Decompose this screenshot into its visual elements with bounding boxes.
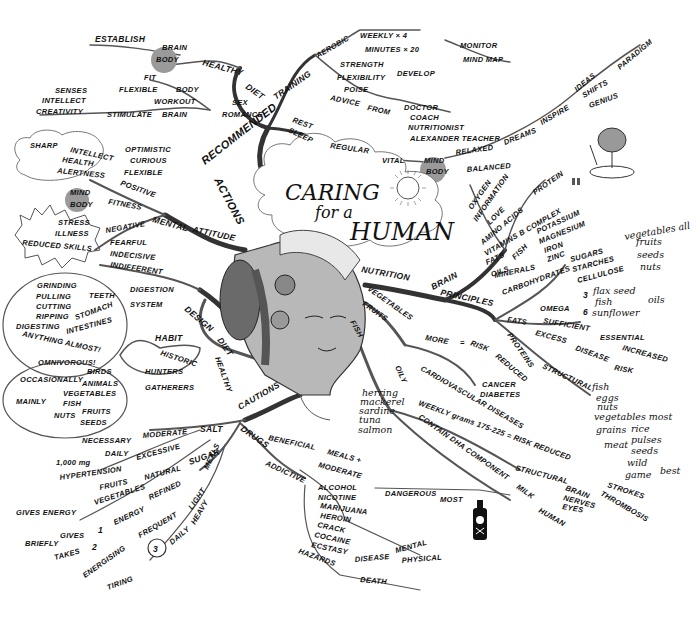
label-relaxed: RELAXED [455,143,494,157]
label-advice: ADVICE [329,93,362,108]
label-curious: CURIOUS [130,156,167,165]
title-line1: CARING [285,180,380,205]
label-romance: ROMANCE [222,110,264,119]
label-historic: HISTORIC [159,348,198,368]
label-risk-2: RISK [469,338,490,353]
label-body-3: BODY [426,167,450,176]
label-necessary: NECESSARY [82,436,132,445]
label-salt: SALT [200,424,223,434]
label-paradigm: PARADIGM [616,37,655,72]
label-fish-2: FISH [510,242,529,261]
label-omega3: 3 [583,290,588,300]
label-body-2: BODY [176,85,200,94]
label-omnivorous: OMNIVOROUS! [38,358,96,367]
brain-eating-illustration [572,128,634,185]
label-nuts-2: nuts [640,261,661,272]
label-sharp: SHARP [30,141,58,150]
label-system: SYSTEM [130,300,163,309]
label-briefly: BRIEFLY [25,539,59,548]
label-occasionally: OCCASIONALLY [20,375,84,384]
label-tiring: TIRING [106,574,135,592]
label-disease-2: DISEASE [574,343,611,364]
label-structural: STRUCTURAL [541,362,594,393]
label-nuts: NUTS [54,411,76,420]
label-seeds: SEEDS [80,418,107,427]
label-physical: PHYSICAL [401,553,442,565]
label-drugs: DRUGS [239,423,271,450]
label-protein: PROTEIN [531,169,565,197]
label-animals: ANIMALS [81,379,118,388]
label-negative: NEGATIVE [105,219,147,235]
label-intellect: INTELLECT [42,96,87,105]
label-brain: BRAIN [162,43,188,52]
label-optimistic: OPTIMISTIC [125,145,171,154]
label-workout: WORKOUT [154,97,197,106]
label-mental-2: MENTAL [394,538,428,555]
label-healthy: HEALTHY [201,57,245,78]
label-fruits-3: fruits [635,236,662,247]
label-brain-2: BRAIN [162,110,188,119]
label-sunflower: sunflower [592,307,641,318]
label-coach: COACH [410,113,439,122]
label-poise: POISE [344,85,369,94]
poison-bottle-icon [473,500,487,540]
label-moderate: MODERATE [142,427,188,440]
label-increased: INCREASED [621,343,669,364]
label-energy: ENERGY [112,504,147,527]
label-1: 1 [98,525,103,535]
label-body: BODY [156,55,180,64]
label-minutes: MINUTES × 20 [365,45,420,54]
label-alexander-teacher: ALEXANDER TEACHER [409,134,500,143]
label-actions: ACTIONS [212,174,247,226]
label-anything-almost: ANYTHING ALMOST! [21,329,102,355]
label-addictive: ADDICTIVE [263,458,307,485]
label-doctor: DOCTOR [404,103,438,112]
label-3: 3 [153,544,158,554]
label-equals: = [460,338,465,347]
label-game: game [625,469,652,480]
label-daily: DAILY [105,449,129,458]
label-ripping: RIPPING [36,312,69,321]
label-intestines: INTESTINES [65,315,113,336]
label-flexibility: FLEXIBILITY [337,73,386,82]
title-line3: HUMAN [349,218,455,246]
label-grinding: GRINDING [37,281,77,290]
label-grains: grains [596,424,626,435]
label-hunters: HUNTERS [145,367,183,376]
label-illness: ILLNESS [55,229,89,238]
label-reduced-skills: REDUCED SKILLS [22,238,93,253]
label-aerobic: AEROBIC [314,33,351,60]
label-diet-2: DIET [215,335,235,358]
label-body-4: BODY [70,200,94,209]
label-meals-plus: MEALS + [326,447,362,465]
label-omega6: 6 [583,307,588,317]
label-nutritionist: NUTRITIONIST [408,123,465,132]
label-meat: meat [604,439,628,450]
label-design: DESIGN [183,304,216,334]
label-most: MOST [440,495,464,504]
label-vegetables-most: vegetables most [594,411,672,422]
label-risk: RISK [614,363,635,375]
label-omega: OMEGA [540,304,570,313]
label-stimulate: STIMULATE [107,110,153,119]
label-gives-energy: GIVES ENERGY [16,508,77,517]
label-diabetes: DIABETES [480,390,520,399]
label-pulling: PULLING [36,292,71,301]
label-weekly: WEEKLY × 4 [360,31,408,40]
label-stress: STRESS [58,218,90,227]
label-gives: GIVES [60,531,84,540]
label-sex: SEX [232,98,249,107]
label-more: MORE [425,333,451,346]
label-rice: rice [631,423,650,434]
label-teeth: TEETH [89,291,115,300]
label-develop: DEVELOP [397,69,436,78]
label-birds: BIRDS [87,367,112,376]
label-excess: EXCESS [534,328,567,345]
label-takes: TAKES [53,546,81,562]
label-structural-2: STRUCTURAL [514,463,569,486]
label-mind-2: MIND [70,188,91,197]
label-fats-2: FATS [507,315,528,327]
label-2: 2 [91,542,97,552]
label-digestion: DIGESTION [130,285,174,294]
label-disease: DISEASE [354,552,390,564]
